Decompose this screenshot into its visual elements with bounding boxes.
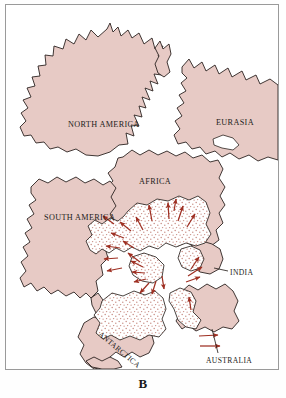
pangaea-map-svg: NORTH AMERICA EURASIA AFRICA SOUTH AMERI… — [6, 5, 278, 369]
figure-caption-bar: B — [0, 372, 286, 396]
landmass-north-america — [20, 23, 165, 156]
label-africa: AFRICA — [139, 177, 171, 186]
label-australia: AUSTRALIA — [206, 356, 252, 365]
ice-flow-arrow — [199, 335, 218, 336]
label-eurasia: EURASIA — [216, 118, 254, 127]
ice-flow-arrow — [107, 268, 122, 271]
ice-flow-arrow — [140, 283, 149, 293]
australia-leader-line — [212, 329, 218, 353]
label-north-america: NORTH AMERICA — [68, 120, 140, 129]
ice-flow-arrow — [186, 277, 200, 282]
figure-root: NORTH AMERICA EURASIA AFRICA SOUTH AMERI… — [0, 0, 286, 398]
ice-flow-arrow — [162, 276, 164, 289]
label-south-america: SOUTH AMERICA — [44, 213, 115, 222]
ice-sheet-india-lobe — [178, 246, 204, 271]
map-frame: NORTH AMERICA EURASIA AFRICA SOUTH AMERI… — [5, 4, 279, 370]
figure-caption-label: B — [138, 376, 147, 392]
label-india: INDIA — [230, 268, 253, 277]
